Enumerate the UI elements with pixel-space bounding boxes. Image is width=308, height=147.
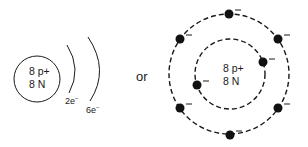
or-connector: or	[136, 69, 148, 84]
electron	[225, 10, 234, 19]
inner-shell-label: 2e−	[65, 95, 79, 106]
inner-shell-arc	[67, 45, 75, 93]
electron	[259, 58, 268, 67]
right-atom-model: 8 p+ 8 N	[169, 10, 290, 140]
electron	[274, 35, 283, 44]
inner-orbit	[195, 39, 265, 109]
left-atom-model: 8 p+ 8 N 2e− 6e−	[14, 37, 100, 115]
electron	[176, 35, 185, 44]
outer-orbit	[169, 14, 289, 134]
electron	[176, 104, 185, 113]
oxygen-atom-diagram: 8 p+ 8 N 2e− 6e− or 8 p+ 8 N	[0, 0, 308, 147]
electron	[193, 81, 202, 90]
right-nucleus-neutrons: 8 N	[223, 75, 239, 87]
electron	[226, 131, 235, 140]
left-nucleus-neutrons: 8 N	[29, 78, 45, 90]
right-nucleus-protons: 8 p+	[223, 62, 244, 74]
outer-shell-arc	[88, 37, 100, 101]
electron	[274, 104, 283, 113]
outer-shell-label: 6e−	[86, 104, 100, 115]
left-nucleus-protons: 8 p+	[29, 65, 50, 77]
